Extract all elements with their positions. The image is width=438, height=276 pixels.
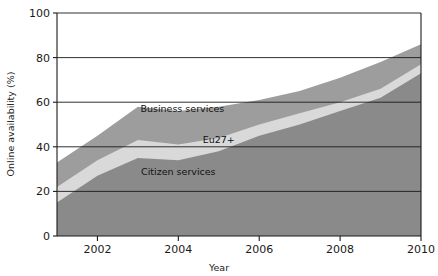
chart-figure: 020406080100 20022004200620082010 Busine…: [0, 0, 438, 276]
x-tick-label: 2008: [326, 243, 354, 256]
y-tick-label: 0: [43, 230, 50, 243]
x-tick-group: 20022004200620082010: [83, 236, 435, 256]
y-tick-group: 020406080100: [29, 7, 57, 243]
y-tick-label: 40: [36, 141, 50, 154]
annotation-citizen-services: Citizen services: [141, 166, 216, 177]
x-tick-label: 2004: [164, 243, 192, 256]
annotation-eu27-: Eu27+: [203, 134, 235, 145]
x-axis-title: Year: [208, 262, 229, 273]
x-tick-label: 2010: [407, 243, 435, 256]
y-tick-label: 100: [29, 7, 50, 20]
y-tick-label: 20: [36, 185, 50, 198]
annotation-business-services: Business services: [140, 103, 224, 114]
y-tick-label: 80: [36, 52, 50, 65]
x-tick-label: 2006: [245, 243, 273, 256]
y-axis-title: Online availability (%): [5, 72, 16, 177]
x-tick-label: 2002: [83, 243, 111, 256]
stacked-area-chart: 020406080100 20022004200620082010 Busine…: [0, 0, 438, 276]
y-tick-label: 60: [36, 96, 50, 109]
